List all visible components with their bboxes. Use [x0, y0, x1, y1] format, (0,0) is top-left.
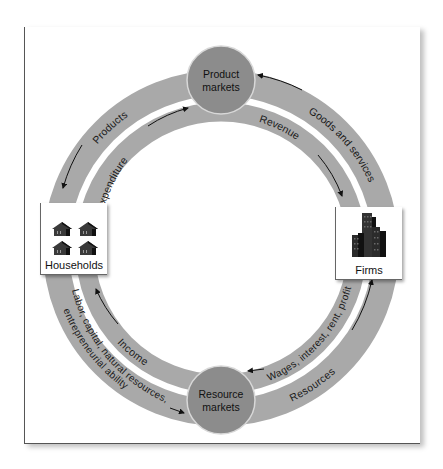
resource-markets-line2: markets: [202, 401, 239, 413]
resource-markets-line1: Resource: [199, 388, 244, 400]
product-markets-line1: Product: [203, 68, 239, 80]
house-icon: [51, 221, 71, 236]
building-icon: [352, 213, 386, 261]
households-node: Households: [40, 203, 107, 275]
resource-markets-node: Resource markets: [187, 366, 255, 434]
product-markets-node: Product markets: [187, 46, 255, 114]
house-icon: [51, 240, 71, 255]
house-icon: [77, 240, 97, 255]
households-label: Households: [45, 259, 103, 274]
firms-label: Firms: [355, 264, 383, 279]
product-markets-line2: markets: [202, 81, 239, 93]
firms-node: Firms: [335, 207, 402, 280]
house-icon: [77, 221, 97, 236]
households-icon-group: [51, 221, 97, 255]
